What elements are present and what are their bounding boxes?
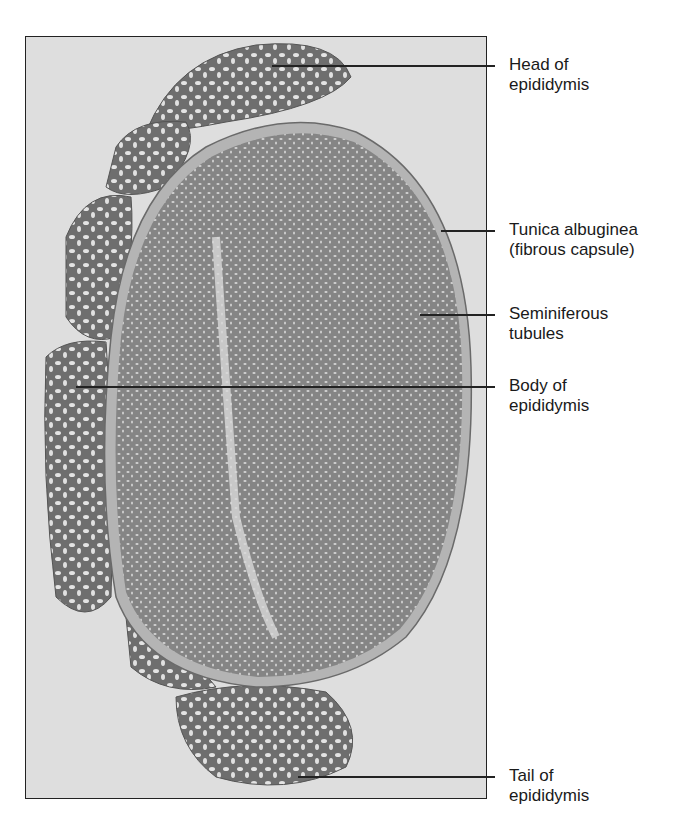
label-seminiferous-tubules: Seminiferous tubules xyxy=(509,304,608,344)
label-tunica-albuginea: Tunica albuginea (fibrous capsule) xyxy=(509,220,638,260)
label-body-of-epididymis: Body of epididymis xyxy=(509,376,589,416)
micrograph-frame xyxy=(25,36,487,799)
tissue-section-illustration xyxy=(26,37,487,799)
leader-line-body xyxy=(76,386,495,388)
label-head-of-epididymis: Head of epididymis xyxy=(509,55,589,95)
leader-line-seminiferous xyxy=(420,314,495,316)
leader-line-tunica xyxy=(441,230,495,232)
testis-body xyxy=(105,122,472,687)
leader-line-head xyxy=(272,65,495,67)
label-tail-of-epididymis: Tail of epididymis xyxy=(509,766,589,806)
leader-line-tail xyxy=(298,776,495,778)
